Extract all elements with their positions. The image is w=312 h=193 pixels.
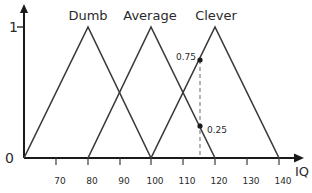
x-tick-label-120: 120 [210, 176, 227, 186]
y-axis: 1 0 [5, 4, 28, 166]
label-clever: Clever [195, 8, 237, 23]
y-tick-label-1: 1 [9, 19, 18, 35]
x-tick-label-80: 80 [86, 176, 98, 186]
point-clever-0-75 [197, 57, 202, 62]
series-clever [151, 27, 279, 158]
x-axis-arrow-icon [294, 154, 304, 163]
series-dumb [24, 27, 151, 158]
x-tick-label-70: 70 [54, 176, 66, 186]
point-label-0-75: 0.75 [176, 52, 196, 62]
x-tick-label-140: 140 [274, 176, 291, 186]
x-ticks [56, 158, 279, 165]
x-axis-label: IQ [295, 164, 309, 179]
y-axis-arrow-icon [20, 4, 28, 13]
label-dumb: Dumb [68, 8, 107, 23]
fuzzy-membership-chart: 1 0 70 80 90 100 110 12 [0, 0, 312, 193]
x-tick-label-110: 110 [178, 176, 195, 186]
point-label-0-25: 0.25 [207, 125, 227, 135]
series-average [88, 27, 215, 158]
point-average-0-25 [197, 123, 202, 128]
x-tick-label-100: 100 [146, 176, 163, 186]
x-tick-label-90: 90 [118, 176, 130, 186]
label-average: Average [123, 8, 176, 23]
y-tick-label-0: 0 [5, 150, 14, 166]
x-tick-label-130: 130 [242, 176, 259, 186]
x-axis: 70 80 90 100 110 120 130 140 IQ [24, 154, 309, 187]
